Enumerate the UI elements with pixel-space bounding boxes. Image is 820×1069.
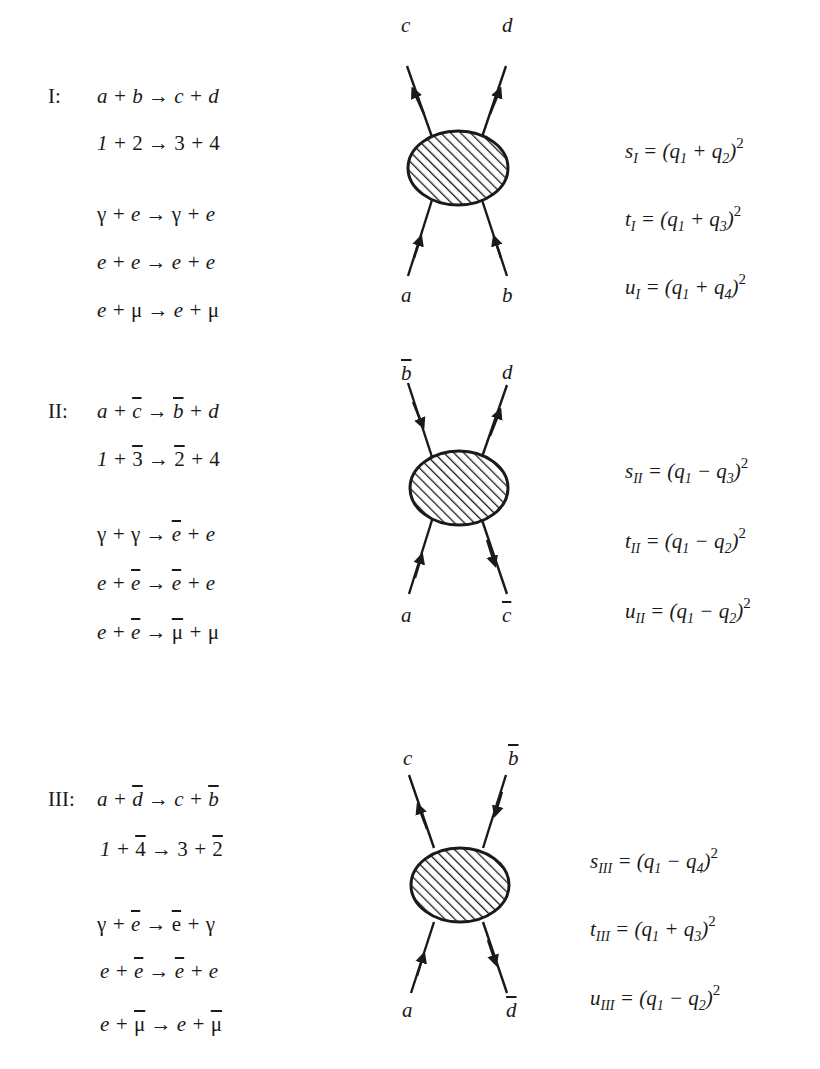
arrow-out-icon [419,808,427,829]
arrow-in-icon [414,240,420,258]
feynman-blob-diagram-III [409,775,509,993]
interaction-blob [411,848,509,922]
feynman-blob-diagram-I [407,66,508,276]
arrow-in-icon [417,957,423,976]
interaction-blob [408,131,508,205]
arrow-out-icon [490,413,499,436]
arrow-in-icon [413,402,422,424]
arrow-out-icon [414,92,424,114]
interaction-blob [410,451,508,525]
scattering-diagrams [0,0,820,1069]
arrow-out-icon [488,940,495,961]
arrow-out-icon [490,92,499,114]
feynman-blob-diagram-II [408,383,508,594]
arrow-in-icon [495,240,501,258]
